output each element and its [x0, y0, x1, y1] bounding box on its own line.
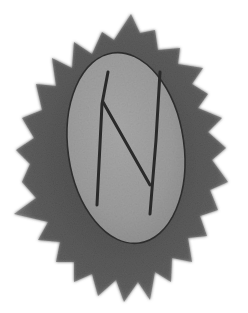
rune-stone-illustration: [0, 0, 248, 313]
